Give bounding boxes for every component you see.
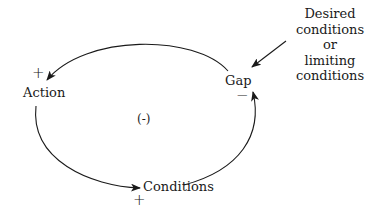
external-line-1: Desired [285,6,375,22]
arrow-gap-to-action [47,44,228,80]
action-polarity-sign: + [32,66,45,81]
arrow-external-to-gap [252,41,286,67]
loop-polarity-label: (-) [137,112,150,126]
arrow-action-to-conditions [36,106,140,188]
external-line-4: limiting [285,53,375,69]
node-action: Action [23,86,65,100]
external-line-3: or [285,37,375,53]
node-conditions: Conditions [143,180,214,194]
gap-polarity-sign: − [236,88,249,103]
external-line-2: conditions [285,22,375,38]
arrow-conditions-to-gap [184,92,255,185]
external-input-label: Desired conditions or limiting condition… [285,6,375,84]
conditions-polarity-sign: + [133,193,146,208]
external-line-5: conditions [285,68,375,84]
